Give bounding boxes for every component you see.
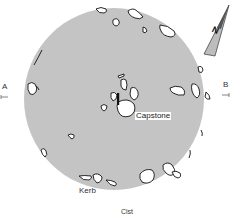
capstone-mark (117, 93, 119, 105)
section-b-label: B (223, 81, 228, 89)
kerb-label: Kerb (79, 187, 96, 195)
section-a-label: A (2, 83, 7, 91)
site-plan (0, 0, 231, 215)
cist-label: Cist (121, 208, 133, 215)
capstone-label: Capstone (135, 112, 171, 120)
